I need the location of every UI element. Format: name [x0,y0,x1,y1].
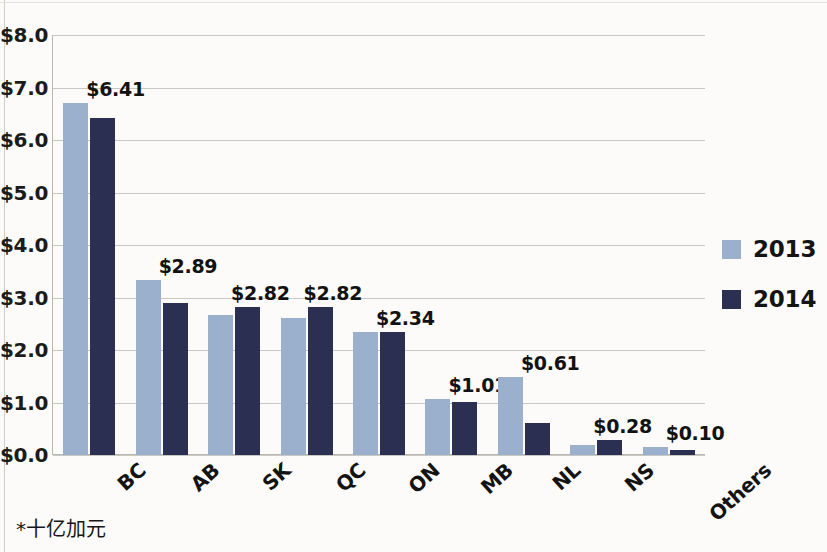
x-axis: BCABSKQCONMBNLNSOthers [53,458,705,518]
legend-label: 2014 [753,286,816,312]
bar-2013-SK [208,315,233,455]
bar-2014-AB [163,303,188,455]
bar-group [353,35,405,455]
y-axis-tick-label: $4.0 [0,233,48,257]
bar-2013-NL [498,377,523,455]
legend-swatch-2013 [722,240,741,259]
bar-2014-MB [452,402,477,455]
x-axis-tick-label: QC [331,458,370,497]
bar-group [208,35,260,455]
x-axis-tick-label: NL [547,458,585,495]
bar-2013-QC [281,318,306,455]
bar-group [281,35,333,455]
legend-item-2013: 2013 [722,236,822,262]
bar-2013-Others [643,447,668,455]
bar-group [570,35,622,455]
chart-legend: 20132014 [722,236,822,336]
y-axis-tick-label: $5.0 [0,181,48,205]
bar-2013-AB [136,280,161,455]
bar-2013-ON [353,332,378,455]
legend-label: 2013 [753,236,816,262]
bar-value-label: $0.10 [666,422,725,444]
bar-2013-BC [63,103,88,455]
bar-2014-BC [90,118,115,455]
y-axis-tick-label: $6.0 [0,128,48,152]
bar-2014-Others [670,450,695,455]
legend-item-2014: 2014 [722,286,822,312]
y-axis-tick-label: $0.0 [0,443,48,467]
bar-2013-MB [425,399,450,455]
y-axis-tick-label: $7.0 [0,76,48,100]
bar-2014-NL [525,423,550,455]
bar-series-container: $6.41$2.89$2.82$2.82$2.34$1.01$0.61$0.28… [53,35,705,455]
x-axis-tick-label: SK [258,458,296,496]
bar-group [498,35,550,455]
x-axis-tick-label: BC [113,458,151,496]
y-axis-tick-label: $3.0 [0,286,48,310]
x-axis-tick-label: ON [404,458,445,498]
y-axis-tick-label: $8.0 [0,23,48,47]
bar-group [643,35,695,455]
bar-chart: $8.0$7.0$6.0$5.0$4.0$3.0$2.0$1.0$0.0 $6.… [0,0,827,552]
x-axis-tick-label: NS [620,458,659,496]
bar-2014-ON [380,332,405,455]
y-axis: $8.0$7.0$6.0$5.0$4.0$3.0$2.0$1.0$0.0 [0,35,48,455]
x-axis-tick-label: AB [185,458,224,496]
bar-group [136,35,188,455]
y-axis-tick-label: $1.0 [0,391,48,415]
bar-2014-QC [308,307,333,455]
legend-swatch-2014 [722,290,741,309]
bar-2014-NS [597,440,622,455]
bar-2013-NS [570,445,595,456]
chart-footnote: *十亿加元 [16,513,106,542]
x-axis-tick-label: Others [704,458,776,526]
y-axis-tick-label: $2.0 [0,338,48,362]
gridline [53,455,705,456]
x-axis-tick-label: MB [476,458,518,499]
scan-edge-top [0,2,827,3]
bar-2014-SK [235,307,260,455]
